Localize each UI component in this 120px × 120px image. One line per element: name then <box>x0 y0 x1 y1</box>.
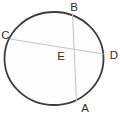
point-label-a: A <box>81 102 89 114</box>
point-label-c: C <box>1 29 9 41</box>
geometry-diagram: B C D E A <box>0 0 120 120</box>
point-label-b: B <box>70 1 78 13</box>
point-label-d: D <box>110 49 118 61</box>
circle-outline <box>5 12 104 105</box>
point-label-e: E <box>57 50 65 62</box>
circle-chords-figure: B C D E A <box>0 0 120 120</box>
